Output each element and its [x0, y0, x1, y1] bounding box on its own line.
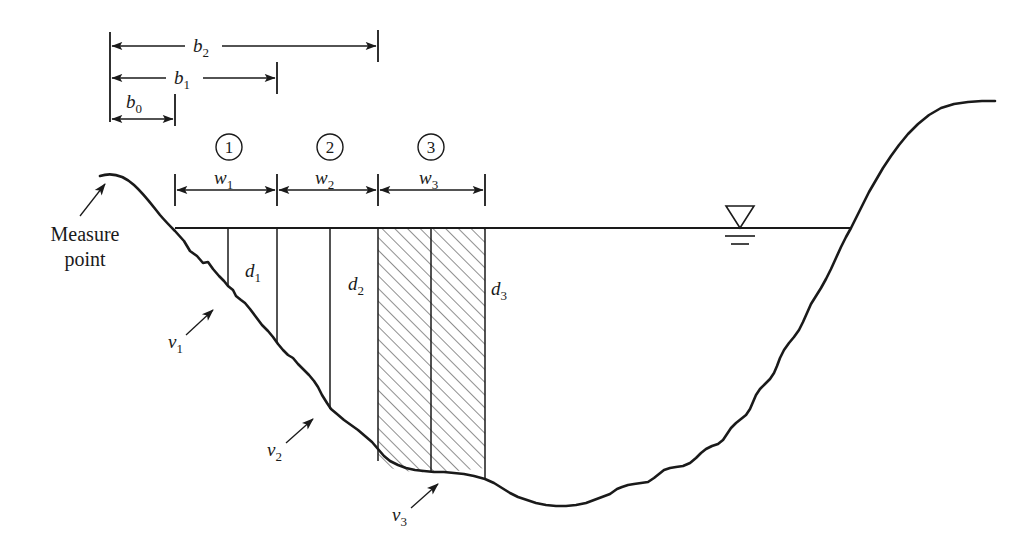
- panel-2-number: 2: [326, 138, 335, 157]
- panel-3-number: 3: [427, 138, 436, 157]
- panel-1-number: 1: [225, 138, 234, 157]
- measure-point-label-line1: Measure: [51, 223, 120, 245]
- d1-label: d1: [245, 260, 261, 285]
- w1-label: w1: [214, 167, 233, 192]
- b1-dimension: b1: [112, 67, 275, 92]
- panel-number-1: 1: [216, 134, 242, 160]
- panel-number-2: 2: [317, 134, 343, 160]
- b2-label: b2: [193, 35, 209, 60]
- b2-dimension: b2: [112, 35, 376, 60]
- b0-label: b0: [126, 91, 142, 116]
- v1-label: v1: [168, 331, 183, 356]
- v1-annotation: v1: [168, 310, 213, 356]
- v2-label: v2: [267, 439, 282, 464]
- w2-dimension: w2: [279, 167, 376, 192]
- water-level-symbol: [725, 206, 755, 244]
- measure-point-annotation: Measure point: [51, 184, 120, 271]
- b0-dimension: b0: [112, 91, 173, 119]
- w3-label: w3: [419, 167, 438, 192]
- b1-label: b1: [174, 67, 190, 92]
- cross-section-diagram: b2 b1 b0 1 2 3 w1: [0, 0, 1023, 540]
- v3-label: v3: [392, 504, 407, 529]
- measure-point-label-line2: point: [64, 248, 106, 271]
- v2-annotation: v2: [267, 419, 313, 464]
- w3-dimension: w3: [380, 167, 483, 192]
- w2-label: w2: [315, 167, 334, 192]
- v3-annotation: v3: [392, 484, 438, 529]
- w1-dimension: w1: [177, 167, 275, 192]
- riverbed-profile: [100, 101, 995, 506]
- d2-label: d2: [348, 273, 364, 298]
- figure-canvas: b2 b1 b0 1 2 3 w1: [0, 0, 1023, 540]
- d3-label: d3: [491, 278, 507, 303]
- panel-number-3: 3: [418, 134, 444, 160]
